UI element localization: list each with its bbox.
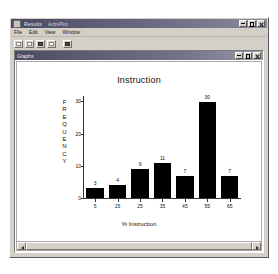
bar-slot: 3: [84, 96, 106, 198]
graphs-content: Instruction F R E Q U E N C Y: [16, 61, 262, 251]
bar-value-label: 7: [176, 168, 193, 174]
x-axis-tick: 35: [151, 199, 173, 209]
y-axis-tick-label: 10: [75, 163, 81, 169]
y-axis-tick-label: 30: [75, 98, 81, 104]
application-window: Results ActivPlot File Edit View Window: [9, 17, 269, 258]
bar: 7: [221, 176, 238, 198]
window-subtitle: ActivPlot: [48, 21, 239, 27]
x-axis-tick-mark: [95, 199, 96, 202]
scroll-thumb[interactable]: [26, 242, 252, 250]
bar-slot: 4: [106, 96, 128, 198]
bar-value-label: 3: [86, 180, 103, 186]
x-axis-tick-label: 15: [106, 203, 128, 209]
app-icon: [13, 20, 21, 28]
new-document-icon[interactable]: [14, 40, 23, 48]
x-axis-tick: 25: [129, 199, 151, 209]
x-axis-ticks: 5 15 25 35: [84, 199, 241, 209]
minimize-button[interactable]: [239, 20, 247, 27]
x-axis-tick-mark: [162, 199, 163, 202]
bar-slot: 9: [129, 96, 151, 198]
menu-item-edit[interactable]: Edit: [29, 29, 38, 35]
x-axis-tick-mark: [230, 199, 231, 202]
bar-value-label: 4: [109, 177, 126, 183]
y-axis-label-letter: C: [60, 151, 69, 158]
bar-value-label: 7: [221, 168, 238, 174]
graphs-title: Graphs: [17, 53, 235, 59]
bar: 30: [199, 102, 216, 198]
y-axis-label-letter: E: [60, 114, 69, 121]
graphs-child-window: Graphs Instruction F R E Q U: [14, 50, 264, 253]
x-axis-tick-label: 25: [129, 203, 151, 209]
x-axis-tick-mark: [207, 199, 208, 202]
graphs-titlebar[interactable]: Graphs: [15, 51, 263, 60]
x-axis-label: % Instruction: [17, 221, 261, 227]
x-axis-tick-label: 45: [174, 203, 196, 209]
bar-slot: 7: [219, 96, 241, 198]
bar: 4: [109, 185, 126, 198]
menu-bar: File Edit View Window: [11, 28, 267, 37]
menu-item-window[interactable]: Window: [62, 29, 80, 35]
y-axis-tick-label: 20: [75, 131, 81, 137]
plot-area: 0 10 20 30: [83, 96, 241, 199]
desktop-background: Results ActivPlot File Edit View Window: [0, 0, 278, 274]
window-title: Results: [24, 21, 42, 27]
y-axis-label-letter: N: [60, 143, 69, 150]
y-axis-label: F R E Q U E N C Y: [60, 99, 69, 166]
graphs-close-button[interactable]: [253, 52, 261, 59]
bar: 9: [131, 169, 148, 198]
x-axis-tick: 15: [106, 199, 128, 209]
chart-icon[interactable]: [63, 40, 72, 48]
x-axis-tick-mark: [140, 199, 141, 202]
window-controls: [239, 20, 265, 27]
menu-item-file[interactable]: File: [14, 29, 22, 35]
open-folder-icon[interactable]: [25, 40, 34, 48]
x-axis-tick-label: 5: [84, 203, 106, 209]
maximize-button[interactable]: [248, 20, 256, 27]
histogram-chart: Instruction F R E Q U E N C Y: [17, 62, 261, 241]
graphs-minimize-button[interactable]: [235, 52, 243, 59]
y-axis-label-letter: E: [60, 136, 69, 143]
bar-slot: 7: [174, 96, 196, 198]
scroll-right-arrow-icon[interactable]: [252, 242, 261, 250]
menu-item-view[interactable]: View: [45, 29, 56, 35]
table-icon[interactable]: [47, 40, 56, 48]
bar: 11: [154, 163, 171, 198]
y-axis-label-letter: U: [60, 129, 69, 136]
graphs-window-controls: [235, 52, 261, 59]
x-axis-tick: 45: [174, 199, 196, 209]
toolbar: [11, 38, 267, 49]
bar-value-label: 11: [154, 155, 171, 161]
bar: 3: [86, 188, 103, 198]
scroll-track[interactable]: [26, 242, 252, 250]
close-button[interactable]: [257, 20, 265, 27]
x-axis-tick: 55: [196, 199, 218, 209]
y-axis-label-letter: F: [60, 99, 69, 106]
x-axis-tick-label: 35: [151, 203, 173, 209]
bar: 7: [176, 176, 193, 198]
window-titlebar[interactable]: Results ActivPlot: [11, 19, 267, 28]
graphs-maximize-button[interactable]: [244, 52, 252, 59]
bar-value-label: 9: [131, 161, 148, 167]
y-axis-label-letter: R: [60, 106, 69, 113]
x-axis-tick-label: 55: [196, 203, 218, 209]
y-axis-label-letter: Y: [60, 158, 69, 165]
scroll-left-arrow-icon[interactable]: [17, 242, 26, 250]
x-axis-tick-mark: [118, 199, 119, 202]
x-axis-tick-label: 65: [219, 203, 241, 209]
chart-title: Instruction: [17, 75, 261, 85]
print-icon[interactable]: [36, 40, 45, 48]
x-axis-tick: 65: [219, 199, 241, 209]
bar-slot: 30: [196, 96, 218, 198]
horizontal-scrollbar[interactable]: [17, 241, 261, 250]
y-axis-tick-label: 0: [78, 195, 81, 201]
x-axis-tick-mark: [185, 199, 186, 202]
y-axis-label-letter: Q: [60, 121, 69, 128]
bar-series: 3 4 9: [84, 96, 241, 198]
bar-value-label: 30: [199, 94, 216, 100]
bar-slot: 11: [151, 96, 173, 198]
x-axis-tick: 5: [84, 199, 106, 209]
